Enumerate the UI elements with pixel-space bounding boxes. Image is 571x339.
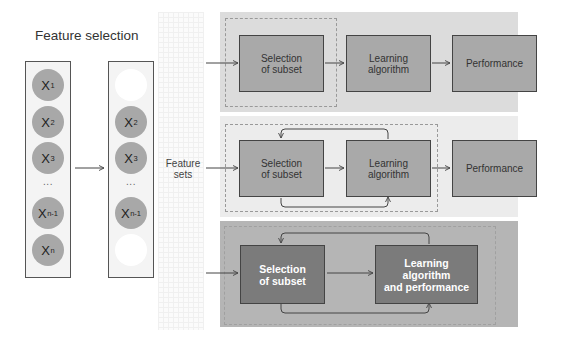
feedforward-arrow-icon xyxy=(281,197,388,207)
feedback-arrow-icon xyxy=(281,129,388,139)
feedforward-arrow-icon xyxy=(281,303,429,313)
arrows-layer xyxy=(0,0,571,339)
feedback-arrow-icon xyxy=(281,233,429,244)
